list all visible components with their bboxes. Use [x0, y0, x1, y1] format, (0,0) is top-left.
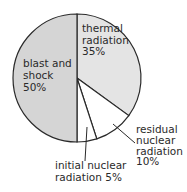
- slice-label-line: thermal: [82, 22, 123, 34]
- slice-label-line: radiation 5%: [55, 171, 122, 183]
- leader-line-residual-nuclear-radiation: [113, 124, 135, 143]
- slice-label-line: 50%: [23, 81, 46, 93]
- slice-label-residual-nuclear-radiation: residualnuclearradiation10%: [136, 123, 183, 167]
- slice-label-initial-nuclear-radiation: initial nuclearradiation 5%: [55, 159, 127, 183]
- slice-label-line: shock: [23, 69, 54, 81]
- slice-label-line: radiation: [82, 34, 129, 46]
- slice-label-line: 35%: [82, 45, 105, 57]
- slice-label-line: initial nuclear: [55, 159, 127, 171]
- slice-label-line: 10%: [136, 155, 159, 167]
- pie-chart: thermalradiation35%residualnuclearradiat…: [0, 0, 187, 192]
- slice-label-line: blast and: [23, 57, 72, 69]
